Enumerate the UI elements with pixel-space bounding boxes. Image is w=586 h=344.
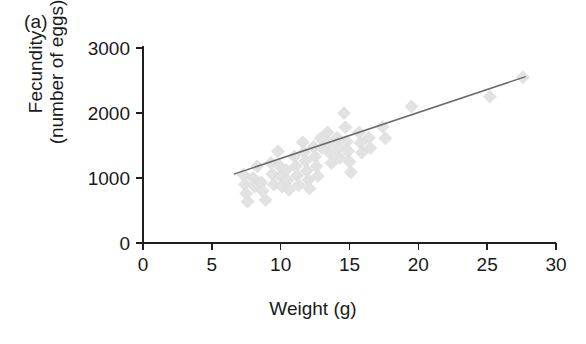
x-axis-ticks-group: 051015202530 <box>138 243 567 275</box>
data-markers-group <box>237 71 529 208</box>
x-axis-label-text: Weight (g) <box>269 298 356 319</box>
y-axis-tick-label: 0 <box>119 233 130 254</box>
x-axis-tick-label: 5 <box>207 254 218 275</box>
figure-container: (a) Fecundity (number of eggs) 051015202… <box>0 0 586 344</box>
x-axis-tick-label: 10 <box>270 254 291 275</box>
scatter-plot: 051015202530 0100020003000 <box>0 0 586 344</box>
data-point-marker <box>339 121 352 134</box>
x-axis-tick-label: 0 <box>138 254 149 275</box>
regression-trendline <box>234 77 526 175</box>
x-axis-tick-label: 25 <box>477 254 498 275</box>
data-point-marker <box>303 182 316 195</box>
x-axis-tick-label: 30 <box>545 254 566 275</box>
data-point-marker <box>271 145 284 158</box>
x-axis-tick-label: 20 <box>408 254 429 275</box>
data-point-marker <box>405 100 418 113</box>
y-axis-tick-label: 3000 <box>88 38 130 59</box>
data-point-marker <box>483 90 496 103</box>
y-axis-tick-label: 2000 <box>88 103 130 124</box>
x-axis-tick-label: 15 <box>339 254 360 275</box>
y-axis-ticks-group: 0100020003000 <box>88 38 143 254</box>
data-point-marker <box>337 107 350 120</box>
x-axis-label: Weight (g) <box>0 298 586 320</box>
y-axis-tick-label: 1000 <box>88 168 130 189</box>
data-point-marker <box>344 166 357 179</box>
data-point-marker <box>379 132 392 145</box>
